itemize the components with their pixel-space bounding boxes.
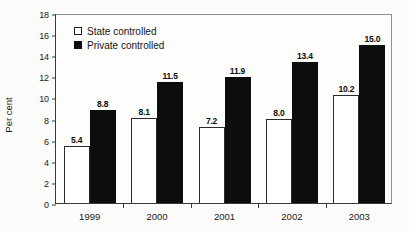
plot-area: 024681012141618 19992000200120022003 5.4… bbox=[55, 14, 392, 204]
legend-label-private: Private controlled bbox=[87, 40, 164, 51]
bar-value-label: 13.4 bbox=[297, 51, 313, 61]
y-axis-tick-mark bbox=[52, 120, 56, 121]
bar-2001-state: 7.2 bbox=[199, 127, 225, 203]
x-axis-tick-label: 2000 bbox=[147, 211, 168, 222]
filled-square-icon bbox=[74, 41, 82, 49]
bar-2002-state: 8.0 bbox=[266, 119, 292, 203]
y-axis-tick-mark bbox=[52, 162, 56, 163]
x-axis-tick-label: 2002 bbox=[281, 211, 302, 222]
bar-1999-state: 5.4 bbox=[64, 146, 90, 203]
y-axis-tick-label: 4 bbox=[44, 158, 49, 168]
bar-2000-state: 8.1 bbox=[131, 118, 157, 204]
bar-value-label: 5.4 bbox=[71, 135, 82, 145]
y-axis-tick-mark bbox=[52, 205, 56, 206]
y-axis-tick-label: 16 bbox=[39, 31, 49, 41]
y-axis-tick-mark bbox=[52, 141, 56, 142]
bar-2001-private: 11.9 bbox=[225, 77, 251, 203]
bar-value-label: 8.8 bbox=[97, 99, 108, 109]
x-axis-tick-mark bbox=[258, 203, 259, 208]
y-axis-tick-label: 6 bbox=[44, 137, 49, 147]
y-axis-tick-mark bbox=[52, 78, 56, 79]
x-axis-tick-label: 2001 bbox=[214, 211, 235, 222]
y-axis-tick-label: 14 bbox=[39, 52, 49, 62]
bar-value-label: 7.2 bbox=[206, 116, 217, 126]
legend-item-state: State controlled bbox=[74, 24, 164, 38]
y-axis-tick-label: 0 bbox=[44, 200, 49, 210]
y-axis-tick-mark bbox=[52, 183, 56, 184]
y-axis-tick-label: 12 bbox=[39, 73, 49, 83]
bar-2003-private: 15.0 bbox=[359, 45, 385, 203]
bar-1999-private: 8.8 bbox=[90, 110, 116, 203]
x-axis-tick-mark bbox=[123, 203, 124, 208]
bar-value-label: 11.9 bbox=[230, 66, 245, 76]
y-axis-tick-mark bbox=[52, 99, 56, 100]
bar-value-label: 8.0 bbox=[273, 108, 284, 118]
x-axis-tick-label: 2003 bbox=[349, 211, 370, 222]
bar-value-label: 11.5 bbox=[162, 71, 177, 81]
y-axis-tick-label: 8 bbox=[44, 116, 49, 126]
bar-2003-state: 10.2 bbox=[333, 95, 359, 203]
bar-2002-private: 13.4 bbox=[292, 62, 318, 203]
chart-screenshot: Per cent 024681012141618 199920002001200… bbox=[0, 0, 409, 231]
y-axis-title: Per cent bbox=[3, 97, 14, 132]
x-axis-tick-mark bbox=[191, 203, 192, 208]
bar-value-label: 15.0 bbox=[364, 34, 380, 44]
x-axis-tick-mark bbox=[326, 203, 327, 208]
y-axis-tick-label: 18 bbox=[39, 10, 49, 20]
legend-label-state: State controlled bbox=[87, 26, 157, 37]
x-axis-tick-label: 1999 bbox=[79, 211, 100, 222]
y-axis-tick-mark bbox=[52, 15, 56, 16]
y-axis-tick-label: 10 bbox=[39, 94, 49, 104]
y-axis-tick-mark bbox=[52, 57, 56, 58]
chart-legend: State controlled Private controlled bbox=[74, 24, 164, 52]
hollow-square-icon bbox=[74, 27, 82, 35]
bar-2000-private: 11.5 bbox=[157, 82, 183, 203]
y-axis-tick-mark bbox=[52, 36, 56, 37]
bar-value-label: 10.2 bbox=[338, 84, 354, 94]
bar-value-label: 8.1 bbox=[138, 107, 149, 117]
y-axis-tick-label: 2 bbox=[44, 179, 49, 189]
legend-item-private: Private controlled bbox=[74, 38, 164, 52]
